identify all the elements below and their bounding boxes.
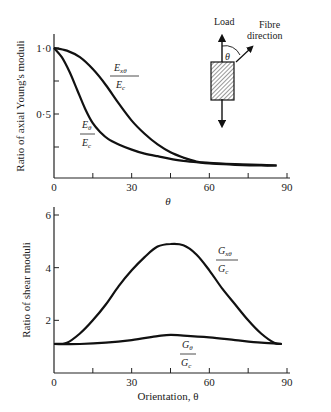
bottom-chart: 246 0306090 Ratio of shear moduli Orient… bbox=[20, 207, 293, 402]
chart-figure: 0·51·0 0306090 Ratio of axial Young's mo… bbox=[0, 0, 331, 412]
y-tick-label: 4 bbox=[46, 262, 52, 274]
top-x-ticks: 0306090 bbox=[51, 173, 293, 193]
top-x-axis-label: θ bbox=[165, 195, 171, 207]
x-tick-label: 30 bbox=[126, 376, 138, 388]
label-g-x-theta-num: Gxθ bbox=[218, 245, 232, 258]
label-g-theta-den: Gc bbox=[181, 357, 192, 370]
bottom-y-axis-label: Ratio of shear moduli bbox=[20, 242, 32, 338]
load-diagram: Load Fibre direction θ bbox=[211, 16, 283, 124]
top-chart: 0·51·0 0306090 Ratio of axial Young's mo… bbox=[14, 16, 293, 207]
curve-g-x-theta bbox=[54, 244, 282, 344]
fibre-label: Fibre bbox=[259, 19, 281, 30]
curve-g-theta bbox=[54, 335, 282, 344]
label-g-x-theta-den: Gc bbox=[218, 263, 229, 276]
y-tick-label: 0·5 bbox=[36, 108, 51, 120]
label-g-theta: Gθ Gc bbox=[180, 339, 196, 370]
x-tick-label: 30 bbox=[126, 181, 138, 193]
label-e-x-theta: Exθ Ec bbox=[110, 62, 139, 92]
label-e-x-theta-den: Ec bbox=[115, 79, 126, 92]
fibre-direction-arrow-icon bbox=[236, 48, 251, 62]
bottom-y-ticks: 246 bbox=[46, 209, 60, 326]
y-tick-label: 6 bbox=[46, 209, 52, 221]
x-tick-label: 0 bbox=[51, 181, 57, 193]
top-y-ticks: 0·51·0 bbox=[36, 42, 59, 147]
specimen-hatched bbox=[211, 62, 234, 100]
x-tick-label: 90 bbox=[282, 376, 294, 388]
bottom-x-axis-label: Orientation, θ bbox=[138, 390, 199, 402]
y-tick-label: 1·0 bbox=[36, 42, 51, 54]
label-e-x-theta-num: Exθ bbox=[113, 62, 127, 75]
x-tick-label: 0 bbox=[51, 376, 57, 388]
x-tick-label: 90 bbox=[282, 181, 294, 193]
label-g-theta-num: Gθ bbox=[182, 339, 193, 352]
x-tick-label: 60 bbox=[204, 376, 216, 388]
load-label: Load bbox=[214, 16, 235, 27]
x-tick-label: 60 bbox=[204, 181, 216, 193]
bottom-x-ticks: 0306090 bbox=[51, 368, 293, 388]
y-tick-label: 2 bbox=[46, 314, 52, 326]
top-y-axis-label: Ratio of axial Young's moduli bbox=[14, 40, 26, 171]
label-e-theta-den: Ec bbox=[81, 137, 92, 150]
label-g-x-theta: Gxθ Gc bbox=[216, 245, 238, 276]
fibre-direction-label: direction bbox=[247, 30, 283, 41]
angle-theta-label: θ bbox=[225, 51, 230, 62]
